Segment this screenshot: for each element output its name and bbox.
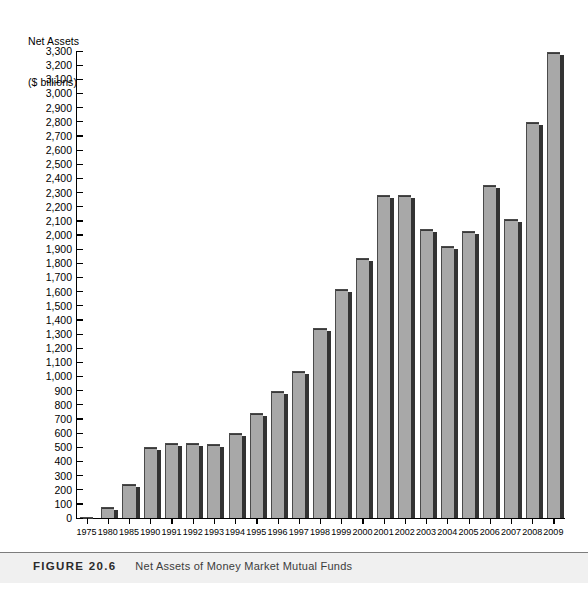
y-axis-tick [76,418,83,419]
x-axis-label-2005: 2005 [458,527,479,537]
bar-2004 [441,246,454,518]
y-axis-label: 2,500 [46,159,72,170]
bar-2006 [483,185,496,518]
y-axis-tick [76,305,83,306]
bar-1992 [186,443,199,518]
x-axis-tick [426,518,427,524]
y-axis-tick [76,489,83,490]
x-axis-label-1995: 1995 [246,527,267,537]
y-axis-tick [76,447,83,448]
y-axis-label: 2,300 [46,188,72,199]
y-axis-label: 400 [54,456,72,467]
y-axis-tick [76,475,83,476]
x-axis-tick [511,518,512,524]
bar-1994 [229,433,242,518]
x-axis-tick [553,518,554,524]
bar-1980 [101,507,114,518]
bar-1996 [271,391,284,518]
bar-1995 [250,413,263,518]
plot-area [76,51,564,518]
x-axis-label-2007: 2007 [500,527,521,537]
y-axis-tick [76,291,83,292]
y-axis-tick [76,433,83,434]
y-axis-tick [76,263,83,264]
bar-1998 [313,328,326,518]
y-axis-tick [76,362,83,363]
x-axis-label-1990: 1990 [140,527,161,537]
x-axis-label-1999: 1999 [331,527,352,537]
y-axis-tick [76,150,83,151]
y-axis-labels: 01002003004005006007008009001,0001,1001,… [0,0,72,590]
y-axis-label: 3,300 [46,46,72,57]
x-axis-label-2006: 2006 [479,527,500,537]
x-axis-label-1992: 1992 [182,527,203,537]
bar-1997 [292,371,305,518]
y-axis-label: 900 [54,386,72,397]
x-axis-tick [129,518,130,524]
y-axis-label: 3,000 [46,88,72,99]
x-axis-label-1993: 1993 [203,527,224,537]
y-axis-label: 2,400 [46,173,72,184]
y-axis-label: 600 [54,428,72,439]
x-axis-tick [469,518,470,524]
figure-number: FIGURE 20.6 [33,560,116,572]
bar-1985 [122,484,135,518]
y-axis-label: 2,900 [46,103,72,114]
x-axis-label-2008: 2008 [522,527,543,537]
y-axis-label: 0 [66,513,72,524]
y-axis-tick [76,192,83,193]
y-axis-label: 1,600 [46,287,72,298]
bar-2001 [377,195,390,518]
x-axis-tick [171,518,172,524]
y-axis-tick [76,376,83,377]
x-axis-tick [490,518,491,524]
x-axis-label-2003: 2003 [415,527,436,537]
y-axis-label: 1,900 [46,244,72,255]
y-axis-label: 1,400 [46,315,72,326]
bar-2009 [547,52,560,518]
x-axis-tick [278,518,279,524]
y-axis-tick [76,319,83,320]
x-axis-tick [405,518,406,524]
x-axis-tick [193,518,194,524]
y-axis-label: 3,100 [46,74,72,85]
x-axis-tick [108,518,109,524]
bar-1993 [207,444,220,518]
y-axis-label: 500 [54,442,72,453]
y-axis-tick [76,121,83,122]
y-axis-label: 700 [54,414,72,425]
y-axis-label: 1,500 [46,301,72,312]
y-axis-tick [76,249,83,250]
x-axis-tick [214,518,215,524]
x-axis-label-1975: 1975 [76,527,97,537]
x-axis-label-2002: 2002 [394,527,415,537]
x-axis-tick [532,518,533,524]
bar-1991 [165,443,178,518]
y-axis-label: 2,100 [46,216,72,227]
x-axis-label-2000: 2000 [352,527,373,537]
y-axis-label: 1,800 [46,258,72,269]
y-axis-tick [76,79,83,80]
y-axis-label: 1,300 [46,329,72,340]
figure-caption-text: Net Assets of Money Market Mutual Funds [135,560,352,572]
bar-1990 [144,447,157,518]
x-axis-tick [384,518,385,524]
x-axis-tick [341,518,342,524]
x-axis-label-1996: 1996 [267,527,288,537]
y-axis-tick [76,348,83,349]
y-axis-tick [76,135,83,136]
x-axis-tick [87,518,88,524]
y-axis-tick [76,503,83,504]
bar-2002 [398,195,411,518]
y-axis-tick [76,220,83,221]
y-axis-label: 2,600 [46,145,72,156]
x-axis-label-2009: 2009 [543,527,564,537]
bar-2007 [504,219,517,518]
bar-2005 [462,231,475,518]
x-axis-tick [235,518,236,524]
bar-2000 [356,258,369,518]
x-axis-label-1991: 1991 [161,527,182,537]
y-axis-label: 2,200 [46,202,72,213]
y-axis-tick [76,178,83,179]
x-axis-label-1985: 1985 [118,527,139,537]
